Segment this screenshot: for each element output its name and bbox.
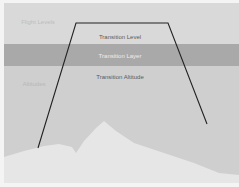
flight-levels-label: Flight Levels: [21, 19, 55, 25]
diagram-canvas: Flight Levels Transition Level Transitio…: [0, 0, 239, 187]
flight-path-line: [38, 23, 207, 148]
diagram-graphics: [4, 3, 239, 183]
transition-layer-label: Transition Layer: [99, 53, 142, 59]
terrain-silhouette: [4, 121, 239, 183]
diagram-frame: Flight Levels Transition Level Transitio…: [4, 3, 239, 183]
altitudes-label: Altitudes: [22, 81, 45, 87]
transition-altitude-label: Transition Altitude: [96, 74, 143, 80]
transition-level-label: Transition Level: [99, 34, 141, 40]
